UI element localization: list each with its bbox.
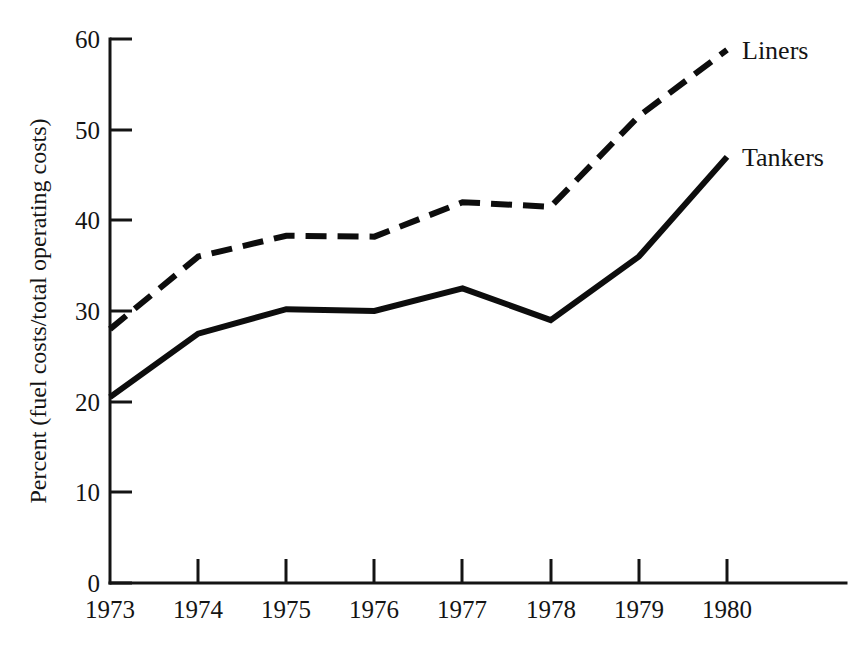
line-chart: 60 50 40 30 20 10 0 1973 1974 1975 1976 …	[0, 0, 859, 648]
y-tick-label-10: 10	[75, 479, 100, 506]
x-tick-label-1978: 1978	[526, 596, 576, 623]
y-tick-label-40: 40	[75, 207, 100, 234]
series-label-liners: Liners	[742, 36, 808, 65]
x-tick-label-1974: 1974	[173, 596, 224, 623]
x-tick-label-1976: 1976	[349, 596, 399, 623]
x-tick-label-1973: 1973	[85, 596, 135, 623]
y-tick-label-30: 30	[75, 298, 100, 325]
y-axis-title: Percent (fuel costs/total operating cost…	[25, 118, 51, 503]
y-tick-label-50: 50	[75, 117, 100, 144]
x-tick-label-1979: 1979	[614, 596, 664, 623]
x-tick-label-1977: 1977	[437, 596, 487, 623]
chart-container: 60 50 40 30 20 10 0 1973 1974 1975 1976 …	[0, 0, 859, 648]
series-label-tankers: Tankers	[742, 143, 824, 172]
chart-background	[0, 0, 859, 648]
y-tick-label-20: 20	[75, 389, 100, 416]
x-tick-label-1980: 1980	[702, 596, 752, 623]
x-tick-label-1975: 1975	[261, 596, 311, 623]
y-tick-label-0: 0	[88, 570, 101, 597]
y-tick-label-60: 60	[75, 26, 100, 53]
